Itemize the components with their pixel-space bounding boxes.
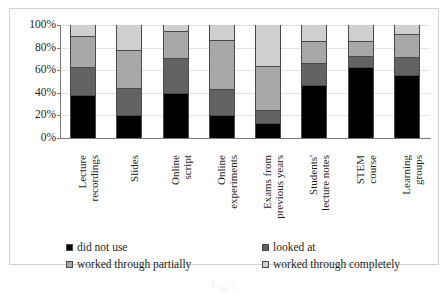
legend-item-2[interactable]: worked through partially [66, 258, 191, 271]
segment-divider [210, 89, 234, 90]
segment-divider [256, 66, 280, 67]
figure-caption: Fig. 1 [0, 276, 448, 295]
bar-segment [256, 66, 280, 110]
segment-divider [395, 57, 419, 58]
bar-segment [256, 110, 280, 124]
bar-segment [256, 123, 280, 138]
segment-divider [164, 93, 188, 94]
bar-segment [164, 93, 188, 138]
bar-segment [395, 34, 419, 57]
segment-divider [164, 31, 188, 32]
bar-segment [71, 95, 95, 138]
segment-divider [117, 88, 141, 89]
segment-divider [395, 75, 419, 76]
segment-divider [256, 110, 280, 111]
y-tick-label-20: 20% [10, 109, 56, 121]
legend-label: worked through partially [77, 258, 191, 271]
segment-divider [71, 67, 95, 68]
bar-segment [349, 67, 373, 138]
bar-segment [71, 25, 95, 36]
bar-segment [256, 25, 280, 66]
segment-divider [349, 56, 373, 57]
bar-segment [117, 50, 141, 88]
x-category-label: groups [412, 155, 438, 235]
bar-segment [164, 58, 188, 93]
bar-segment [71, 36, 95, 67]
bar-segment [117, 115, 141, 138]
legend-label: worked through completely [273, 258, 400, 271]
segment-divider [302, 63, 326, 64]
bar-segment [349, 25, 373, 41]
x-category-label: previous years [273, 155, 299, 235]
legend-swatch-icon [66, 244, 73, 251]
y-tick-label-80: 80% [10, 42, 56, 54]
segment-divider [117, 115, 141, 116]
y-tick-mark-100 [57, 25, 61, 26]
bar-segment [164, 31, 188, 58]
figure-container: 100%80%60%40%20%0% LecturerecordingsSlid… [0, 0, 448, 295]
bar-6[interactable] [348, 25, 374, 138]
y-tick-mark-40 [57, 93, 61, 94]
y-tick-label-40: 40% [10, 87, 56, 99]
bar-segment [395, 75, 419, 138]
segment-divider [164, 58, 188, 59]
legend-label: did not use [77, 241, 127, 254]
legend-item-0[interactable]: did not use [66, 241, 127, 254]
bar-4[interactable] [255, 25, 281, 138]
bar-segment [210, 115, 234, 138]
y-tick-mark-0 [57, 138, 61, 139]
bar-segment [117, 88, 141, 115]
x-category-label: recordings [88, 155, 114, 235]
chart-frame: 100%80%60%40%20%0% LecturerecordingsSlid… [9, 8, 439, 265]
segment-divider [395, 34, 419, 35]
x-category-label: course [366, 155, 392, 235]
bar-segment [395, 25, 419, 34]
bar-5[interactable] [301, 25, 327, 138]
x-axis-line [60, 138, 431, 139]
x-category-label: script [181, 155, 207, 235]
bar-segment [117, 25, 141, 50]
legend-item-3[interactable]: worked through completely [262, 258, 400, 271]
x-category-label: Slides [128, 155, 154, 235]
x-category-label: lecture notes [319, 155, 345, 235]
y-tick-label-60: 60% [10, 64, 56, 76]
segment-divider [256, 123, 280, 124]
plot-area [60, 25, 430, 138]
legend-swatch-icon [66, 261, 73, 268]
bar-3[interactable] [209, 25, 235, 138]
y-tick-label-0: 0% [10, 132, 56, 144]
segment-divider [302, 41, 326, 42]
bar-segment [349, 41, 373, 56]
bar-segment [210, 89, 234, 115]
segment-divider [71, 95, 95, 96]
legend-item-1[interactable]: looked at [262, 241, 315, 254]
segment-divider [302, 85, 326, 86]
bar-1[interactable] [116, 25, 142, 138]
y-tick-label-100: 100% [10, 19, 56, 31]
segment-divider [71, 36, 95, 37]
bar-segment [210, 40, 234, 90]
segment-divider [349, 67, 373, 68]
bar-segment [71, 67, 95, 95]
bar-segment [164, 25, 188, 31]
y-tick-mark-20 [57, 115, 61, 116]
segment-divider [210, 40, 234, 41]
bar-segment [210, 25, 234, 40]
y-axis [60, 9, 61, 155]
segment-divider [349, 41, 373, 42]
legend-swatch-icon [262, 261, 269, 268]
legend-label: looked at [273, 241, 315, 254]
bar-segment [302, 63, 326, 84]
bar-2[interactable] [163, 25, 189, 138]
chart-legend: did not uselooked atworked through parti… [66, 241, 436, 275]
bar-7[interactable] [394, 25, 420, 138]
segment-divider [117, 50, 141, 51]
bar-segment [349, 56, 373, 67]
bar-segment [302, 41, 326, 64]
x-category-label: experiments [227, 155, 253, 235]
bar-segment [302, 85, 326, 138]
bar-0[interactable] [70, 25, 96, 138]
x-axis-category-labels: LecturerecordingsSlidesOnlinescriptOnlin… [60, 155, 430, 235]
bar-segment [395, 57, 419, 75]
segment-divider [210, 115, 234, 116]
